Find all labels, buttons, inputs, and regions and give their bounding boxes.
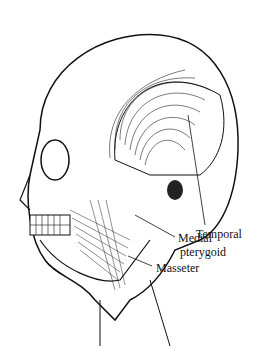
- skull-muscle-illustration: [0, 0, 254, 346]
- label-masseter: Masseter: [156, 262, 199, 275]
- label-medial-pterygoid-line1: Medial: [178, 232, 212, 245]
- label-medial-pterygoid-line2: pterygoid: [180, 246, 226, 259]
